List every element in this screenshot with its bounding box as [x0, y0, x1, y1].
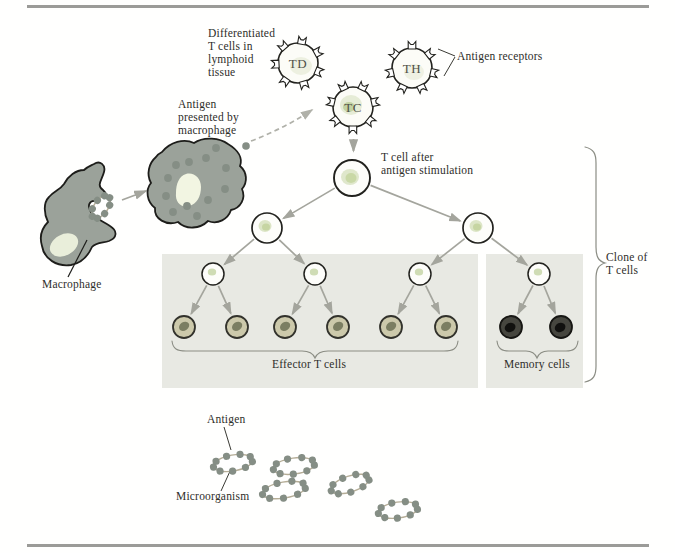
- antigen-label: Antigen: [207, 413, 245, 426]
- dividing-t-cell: [409, 263, 431, 285]
- effector-t-cell: [380, 316, 402, 338]
- division-arrow: [371, 185, 461, 221]
- antigen-dot: [164, 174, 172, 182]
- effector-t-cell: [274, 316, 296, 338]
- antigen-dot: [202, 154, 210, 162]
- antigen-receptors-label: Antigen receptors: [457, 50, 542, 63]
- memory-cells-label: Memory cells: [504, 358, 570, 371]
- antigen-dot: [169, 208, 177, 216]
- dividing-t-cell: [463, 213, 493, 243]
- dividing-t-cell: [202, 263, 224, 285]
- antigen-dot: [172, 161, 180, 169]
- antigen-receptor-icon: [349, 126, 357, 134]
- effector-t-cells-label: Effector T cells: [272, 358, 346, 371]
- antigen-presented-label: Antigen presented by macrophage: [178, 98, 239, 137]
- receptor-pointer-line: [438, 49, 455, 56]
- antigen-dot: [162, 192, 170, 200]
- diagram-canvas: [0, 0, 675, 553]
- receptor-pointer-line: [444, 57, 455, 76]
- antigen-dot: [183, 202, 191, 210]
- antigen-pointer-line: [224, 427, 231, 450]
- differentiated-t-cells-label: Differentiated T cells in lymphoid tissu…: [208, 27, 275, 79]
- effector-t-cell: [226, 316, 248, 338]
- microorganism: [268, 451, 319, 480]
- microorganism: [257, 475, 311, 506]
- memory-cell: [550, 316, 572, 338]
- antigen-dot: [193, 212, 201, 220]
- effector-t-cell: [435, 316, 457, 338]
- macrophage-label: Macrophage: [42, 278, 101, 291]
- t-cell-after-stimulation-label: T cell after antigen stimulation: [381, 151, 473, 177]
- dividing-t-cell: [304, 263, 326, 285]
- antigen-dot: [212, 144, 220, 152]
- dividing-t-cell: [252, 213, 282, 243]
- antigen-receptor-icon: [299, 80, 308, 89]
- antigen-presentation-arrow: [251, 110, 312, 141]
- presented-antigen-dot: [242, 142, 250, 150]
- antigen-receptor-icon: [298, 36, 307, 45]
- memory-cell: [500, 316, 522, 338]
- division-arrow: [283, 188, 334, 218]
- effector-t-cell: [173, 316, 195, 338]
- clone-of-t-cells-label: Clone of T cells: [606, 251, 648, 277]
- microorganism: [324, 466, 375, 502]
- dividing-t-cell: [528, 263, 550, 285]
- macrophage-arrow: [122, 191, 146, 200]
- microorganism-label: Microorganism: [176, 490, 249, 503]
- antigen-receptor-icon: [408, 42, 416, 50]
- microorganism: [208, 448, 258, 479]
- antigen-dot: [222, 164, 230, 172]
- clone-brace: [585, 147, 605, 382]
- stimulated-t-cell: [334, 160, 370, 196]
- td-cell-label: TD: [278, 56, 318, 72]
- antigen-dot: [204, 196, 212, 204]
- microorganism: [373, 496, 422, 525]
- effector-t-cell: [327, 316, 349, 338]
- figure-page: Differentiated T cells in lymphoid tissu…: [0, 0, 675, 553]
- antigen-dot: [221, 185, 229, 193]
- th-cell-label: TH: [392, 61, 432, 77]
- tc-cell-label: TC: [333, 100, 373, 116]
- antigen-dot: [185, 158, 193, 166]
